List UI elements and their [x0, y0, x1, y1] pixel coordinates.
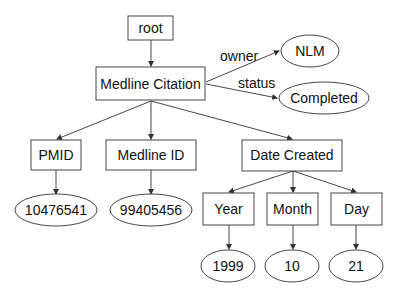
edge-label-owner: owner	[220, 48, 258, 64]
edge-date-day	[293, 171, 356, 192]
node-medline-id-label: Medline ID	[118, 147, 185, 163]
node-completed-label: Completed	[290, 90, 358, 106]
node-month-value-label: 10	[284, 258, 300, 274]
node-pmid-value-label: 10476541	[25, 202, 88, 218]
node-nlm-label: NLM	[295, 43, 325, 59]
node-pmid-label: PMID	[39, 147, 74, 163]
edge-label-status: status	[238, 75, 275, 91]
node-root-label: root	[138, 20, 162, 36]
node-year-value-label: 1999	[212, 258, 243, 274]
node-year-label: Year	[214, 201, 243, 217]
node-medline-citation-label: Medline Citation	[100, 76, 200, 92]
node-month-label: Month	[273, 201, 312, 217]
node-medline-id-value-label: 99405456	[120, 202, 183, 218]
edge-date-year	[229, 171, 293, 192]
tree-diagram: owner status root Medline Citation NLM C…	[0, 0, 402, 297]
node-day-label: Day	[344, 201, 369, 217]
node-date-created-label: Date Created	[250, 147, 333, 163]
node-day-value-label: 21	[348, 258, 364, 274]
edge-citation-pmid	[57, 101, 151, 139]
edge-citation-date-created	[151, 101, 292, 139]
